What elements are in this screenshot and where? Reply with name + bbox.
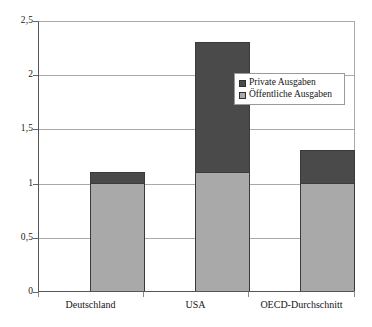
x-axis-tick-mark-right: [354, 292, 355, 297]
bar-segment-deutschland-public[interactable]: [90, 183, 145, 291]
legend-swatch-public-icon: [239, 92, 246, 99]
legend: Private Ausgaben Öffentliche Ausgaben: [234, 73, 345, 105]
legend-item-private-ausgaben[interactable]: Private Ausgaben: [239, 77, 340, 89]
x-axis-label-usa: USA: [143, 300, 248, 310]
x-axis-label-oecd-durchschnitt: OECD-Durchschnitt: [248, 300, 355, 310]
bar-segment-deutschland-private[interactable]: [90, 172, 145, 183]
y-axis-tick-label-0-5: 0,5: [0, 233, 33, 243]
y-axis-tick-label-2-5: 2,5: [0, 16, 33, 26]
x-axis: Deutschland USA OECD-Durchschnitt: [38, 300, 355, 320]
plot-area: Private Ausgaben Öffentliche Ausgaben: [38, 21, 355, 292]
x-axis-tick-mark-2: [248, 292, 249, 297]
bar-segment-usa-public[interactable]: [195, 172, 250, 291]
y-axis-tick-label-1: 1: [0, 179, 33, 189]
bar-group-oecd-durchschnitt[interactable]: [300, 150, 355, 291]
x-axis-label-deutschland: Deutschland: [38, 300, 143, 310]
bar-group-deutschland[interactable]: [90, 172, 145, 291]
bar-segment-oecd-public[interactable]: [300, 183, 355, 291]
y-axis-tick-label-1-5: 1,5: [0, 124, 33, 134]
bar-segment-usa-private[interactable]: [195, 42, 250, 172]
y-axis-tick-label-0: 0: [0, 287, 33, 297]
legend-label-public: Öffentliche Ausgaben: [249, 90, 332, 100]
x-axis-tick-mark-left: [38, 292, 39, 297]
legend-label-private: Private Ausgaben: [249, 78, 316, 88]
legend-item-oeffentliche-ausgaben[interactable]: Öffentliche Ausgaben: [239, 89, 340, 101]
bar-segment-oecd-private[interactable]: [300, 150, 355, 183]
y-axis-tick-label-2: 2: [0, 70, 33, 80]
legend-swatch-private-icon: [239, 80, 246, 87]
stacked-bar-chart: 2,5 2 1,5 1 0,5 0: [0, 0, 372, 327]
x-axis-tick-mark-1: [143, 292, 144, 297]
